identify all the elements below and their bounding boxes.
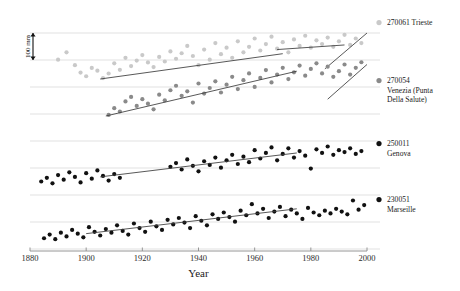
data-point — [309, 67, 313, 71]
data-point — [359, 149, 363, 153]
data-point — [90, 177, 94, 181]
data-point — [90, 66, 94, 70]
data-point — [306, 206, 310, 210]
data-point — [45, 176, 49, 180]
data-point — [354, 66, 358, 70]
legend-item[interactable]: 270061 Trieste — [376, 18, 433, 27]
data-point — [264, 68, 268, 72]
data-point — [56, 173, 60, 177]
data-point — [194, 214, 198, 218]
data-point — [140, 53, 144, 57]
data-point — [62, 178, 66, 182]
legend-item[interactable]: 250011Genova — [376, 139, 411, 158]
legend-label: Della Salute) — [387, 95, 427, 104]
data-point — [275, 158, 279, 162]
data-point — [342, 62, 346, 66]
data-point — [241, 78, 245, 82]
data-point — [275, 47, 279, 51]
data-point — [230, 75, 234, 79]
data-point — [132, 221, 136, 225]
legend-marker — [376, 141, 381, 146]
data-point — [112, 106, 116, 110]
data-point — [112, 61, 116, 65]
data-point — [135, 104, 139, 108]
scale-bar-label: 100 mm — [24, 34, 32, 58]
data-point — [362, 203, 366, 207]
data-point — [253, 36, 257, 40]
data-point — [84, 171, 88, 175]
data-point — [281, 40, 285, 44]
data-point — [146, 102, 150, 106]
data-point — [67, 170, 71, 174]
data-point — [78, 70, 82, 74]
data-point — [107, 71, 111, 75]
data-point — [247, 160, 251, 164]
data-point — [174, 57, 178, 61]
data-point — [312, 210, 316, 214]
series-venezia-punta-della-salute — [106, 60, 367, 117]
data-point — [264, 42, 268, 46]
data-point — [264, 151, 268, 155]
legend-label: 270054 — [387, 76, 410, 85]
data-point — [292, 155, 296, 159]
data-point — [298, 64, 302, 68]
sea-level-trend-chart: 100 mm 1880190019201940196019802000Year … — [0, 0, 460, 291]
data-point — [157, 55, 161, 59]
data-point — [118, 68, 122, 72]
data-point — [95, 69, 99, 73]
data-point — [224, 83, 228, 87]
data-series-group — [39, 33, 367, 242]
data-point — [56, 58, 60, 62]
data-point — [196, 169, 200, 173]
x-axis-group: 1880190019201940196019802000Year — [22, 248, 376, 280]
chart-container: 100 mm 1880190019201940196019802000Year … — [0, 0, 460, 291]
data-point — [168, 88, 172, 92]
data-point — [314, 38, 318, 42]
x-axis-tick-label: 1980 — [302, 253, 319, 263]
data-point — [151, 65, 155, 69]
data-point — [303, 154, 307, 158]
data-point — [236, 39, 240, 43]
data-point — [73, 63, 77, 67]
series-marseille — [42, 198, 366, 241]
data-point — [180, 94, 184, 98]
data-point — [300, 217, 304, 221]
data-point — [269, 145, 273, 149]
data-point — [50, 181, 54, 185]
data-point — [230, 56, 234, 60]
data-point — [199, 219, 203, 223]
x-axis-tick-label: 2000 — [359, 253, 376, 263]
data-point — [326, 36, 330, 40]
data-point — [213, 79, 217, 83]
data-point — [64, 50, 68, 54]
data-point — [309, 167, 313, 171]
data-point — [157, 93, 161, 97]
legend-label: Venezia (Punta — [387, 86, 433, 95]
data-point — [202, 47, 206, 51]
data-point — [354, 36, 358, 40]
legend-label: Genova — [387, 149, 411, 158]
data-point — [59, 231, 63, 235]
legend-label: Marseille — [387, 205, 416, 214]
data-point — [137, 226, 141, 230]
data-point — [337, 148, 341, 152]
legend-item[interactable]: 230051Marseille — [376, 195, 416, 214]
data-point — [219, 90, 223, 94]
data-point — [48, 232, 52, 236]
data-point — [98, 233, 102, 237]
legend-marker — [376, 20, 381, 25]
data-point — [213, 41, 217, 45]
data-point — [250, 202, 254, 206]
data-point — [180, 51, 184, 55]
data-point — [233, 220, 237, 224]
data-point — [236, 87, 240, 91]
data-point — [241, 155, 245, 159]
data-point — [326, 65, 330, 69]
legend-item[interactable]: 270054Venezia (PuntaDella Salute) — [376, 76, 433, 104]
data-point — [292, 37, 296, 41]
data-point — [177, 216, 181, 220]
data-point — [160, 228, 164, 232]
data-point — [334, 207, 338, 211]
data-point — [247, 71, 251, 75]
data-point — [123, 99, 127, 103]
